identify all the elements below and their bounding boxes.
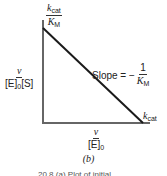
- figure-caption: 20.8 (a) Plot of initial: [38, 170, 111, 176]
- e-conc: [E]: [5, 78, 17, 89]
- v-symbol: v: [17, 65, 21, 76]
- slope-km-subscript: M: [143, 80, 149, 87]
- x-axis-label: v [E]0: [88, 127, 104, 151]
- slope-annotation: Slope = − 1 KM: [92, 63, 149, 87]
- x-e-subscript: 0: [100, 144, 104, 151]
- slope-text: Slope = −: [92, 70, 135, 81]
- x-kcat-subscript: cat: [147, 115, 156, 122]
- slope-numerator: 1: [139, 63, 147, 75]
- x-v-symbol: v: [94, 126, 98, 137]
- x-intercept-label: kcat: [143, 110, 157, 122]
- y-intercept-label: kcat KM: [46, 3, 62, 28]
- slope-fraction: 1 KM: [137, 63, 150, 87]
- y-axis-label: v [E]0[S]: [5, 66, 33, 90]
- x-e-conc: [E]: [88, 139, 100, 150]
- s-conc: [S]: [21, 78, 33, 89]
- kcat-subscript: cat: [51, 7, 60, 14]
- km-subscript: M: [54, 21, 60, 28]
- panel-label: (b): [10, 153, 167, 164]
